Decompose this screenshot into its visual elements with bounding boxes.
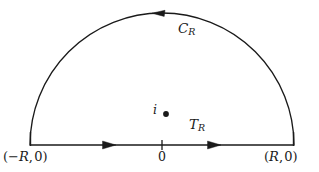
pole-marker-dot xyxy=(163,111,169,117)
segment-label-subscript: R xyxy=(198,122,205,133)
arc-label-subscript: R xyxy=(188,26,195,37)
semicircle-arc-path xyxy=(30,13,294,145)
arc-label-base: C xyxy=(178,20,188,36)
segment-arrowhead-right-icon xyxy=(208,141,222,149)
arc-direction-arrowhead-icon xyxy=(152,10,165,16)
left-endpoint-label: (−R, 0) xyxy=(3,150,48,163)
segment-arrowhead-left-icon xyxy=(103,141,117,149)
arc-label-cr: CR xyxy=(178,22,195,37)
segment-label-base: T xyxy=(189,116,198,132)
origin-label: 0 xyxy=(158,151,166,164)
contour-diagram: CR TR i 0 (−R, 0) (R, 0) xyxy=(0,0,319,172)
contour-svg xyxy=(0,0,319,172)
pole-label-i: i xyxy=(153,104,157,117)
segment-label-tr: TR xyxy=(189,118,205,133)
right-endpoint-label: (R, 0) xyxy=(264,150,298,163)
